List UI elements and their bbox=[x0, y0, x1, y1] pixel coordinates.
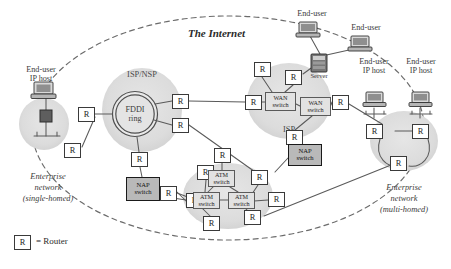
enterprise-left-caption-line1: Enterprise bbox=[2, 172, 94, 181]
desktop-icon-host-left bbox=[31, 82, 56, 99]
atm-switch-1-line2: switch bbox=[213, 179, 229, 185]
router-ent-right-ne[interactable]: R bbox=[412, 124, 429, 139]
atm-switch-2-line2: switch bbox=[198, 201, 214, 207]
label-end-user-ip-host-r1-line2: IP host bbox=[348, 67, 400, 76]
router-fddi-ne[interactable]: R bbox=[172, 94, 189, 109]
router-ent-right-s[interactable]: R bbox=[390, 156, 407, 171]
nap-switch-right-line2: switch bbox=[296, 155, 313, 162]
router-fddi-south[interactable]: R bbox=[131, 152, 148, 167]
enterprise-right-caption-line2: network bbox=[358, 194, 450, 203]
desktop-icon-right-1 bbox=[363, 92, 386, 107]
atm-switch-2[interactable]: ATM switch bbox=[193, 192, 220, 209]
fddi-ring-label-line2: ring bbox=[117, 115, 153, 124]
link-napright-nspne bbox=[275, 158, 288, 172]
enterprise-right-caption-line3: (multi-homed) bbox=[358, 205, 450, 214]
wan-switch-2[interactable]: WAN switch bbox=[300, 97, 331, 116]
router-nsp-south[interactable]: R bbox=[203, 216, 220, 231]
desktop-icon-top-1 bbox=[296, 22, 320, 37]
nap-switch-left[interactable]: NAP switch bbox=[126, 177, 160, 201]
router-nsp-n[interactable]: R bbox=[214, 148, 231, 163]
link-server-topuser1 bbox=[310, 36, 320, 54]
router-nsp-west[interactable]: R bbox=[160, 186, 177, 201]
router-fddi-e[interactable]: R bbox=[172, 118, 189, 133]
link-rfddine-rispwest bbox=[189, 101, 245, 102]
hub-icon-left bbox=[40, 110, 52, 122]
enterprise-left-cloud bbox=[19, 98, 69, 150]
server-icon bbox=[311, 54, 327, 72]
nap-switch-left-line2: switch bbox=[134, 189, 151, 196]
cloud-label-isp-nsp: ISP/NSP bbox=[116, 70, 168, 79]
atm-switch-3[interactable]: ATM switch bbox=[228, 192, 255, 209]
enterprise-left-caption-line3: (single-homed) bbox=[2, 194, 94, 203]
desktop-icon-top-2 bbox=[348, 36, 372, 51]
page-title: The Internet bbox=[188, 28, 278, 40]
router-isp-east[interactable]: R bbox=[332, 95, 349, 110]
wan-switch-1[interactable]: WAN switch bbox=[265, 92, 296, 111]
router-nsp-ne[interactable]: R bbox=[251, 170, 268, 185]
legend-router-text: = Router bbox=[36, 237, 106, 247]
router-nsp-east[interactable]: R bbox=[268, 192, 285, 207]
atm-switch-1[interactable]: ATM switch bbox=[208, 170, 235, 187]
router-isp-south[interactable]: R bbox=[286, 130, 303, 145]
atm-switch-3-line2: switch bbox=[233, 201, 249, 207]
label-end-user-ip-host-left-line2: IP host bbox=[12, 75, 70, 84]
nap-switch-right[interactable]: NAP switch bbox=[288, 144, 322, 166]
router-ent-left[interactable]: R bbox=[64, 143, 81, 158]
network-diagram: The Internet ISP/NSP ISP NSP FDDI ring R… bbox=[0, 0, 451, 269]
wan-switch-1-line2: switch bbox=[272, 102, 288, 108]
label-end-user-top-2: End-user bbox=[340, 24, 392, 33]
legend-router-symbol: R bbox=[14, 235, 31, 250]
router-isp-nw[interactable]: R bbox=[254, 62, 271, 77]
link-rfddisouth-nap bbox=[140, 167, 142, 177]
router-isp-west[interactable]: R bbox=[245, 95, 262, 110]
router-fddi-west[interactable]: R bbox=[78, 107, 95, 122]
desktop-icon-right-2 bbox=[409, 92, 432, 107]
router-nsp-se[interactable]: R bbox=[244, 210, 261, 225]
label-end-user-top-1: End-user bbox=[286, 10, 338, 19]
label-server: Server bbox=[299, 72, 339, 79]
enterprise-right-caption-line1: Enterprise bbox=[358, 183, 450, 192]
diagram-canvas bbox=[0, 0, 451, 269]
router-ent-right-nw[interactable]: R bbox=[366, 124, 383, 139]
wan-switch-2-line2: switch bbox=[307, 107, 323, 113]
enterprise-left-caption-line2: network bbox=[2, 183, 94, 192]
label-end-user-ip-host-r2-line2: IP host bbox=[395, 67, 447, 76]
